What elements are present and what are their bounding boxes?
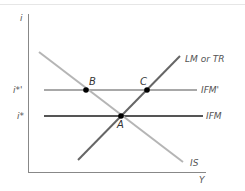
tick-label-i-star-prime: i*' — [13, 85, 22, 95]
is-curve — [39, 52, 183, 162]
point-b-label: B — [89, 76, 96, 87]
point-b — [83, 87, 89, 93]
lm-curve-label: LM or TR — [185, 54, 224, 64]
x-axis-label: Y — [199, 175, 206, 185]
tick-label-i-star: i* — [17, 111, 25, 121]
point-c-label: C — [140, 76, 147, 87]
ifm-label: IFM — [206, 111, 222, 121]
y-axis-label: i — [20, 13, 23, 23]
is-curve-label: IS — [190, 158, 199, 168]
lm-curve — [78, 56, 180, 160]
ifm-prime-label: IFM' — [201, 85, 219, 95]
point-a — [118, 113, 124, 119]
point-c — [144, 87, 150, 93]
point-a-label: A — [116, 119, 124, 130]
is-lm-ifm-diagram: i Y i*' i* LM or TR IFM' IFM IS B C A — [0, 0, 245, 191]
